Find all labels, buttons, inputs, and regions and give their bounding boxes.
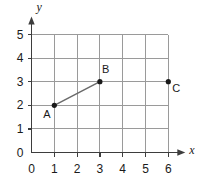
data-point-c <box>166 79 171 84</box>
point-label-b: B <box>102 64 109 75</box>
x-tick-label: 5 <box>142 163 149 175</box>
point-label-a: A <box>43 109 50 120</box>
x-tick-label: 6 <box>165 163 172 175</box>
x-axis-label: x <box>189 144 194 156</box>
y-tick-label: 5 <box>17 29 24 41</box>
x-tick-label: 1 <box>51 163 58 175</box>
y-axis-label: y <box>37 1 42 13</box>
point-layer <box>52 79 171 108</box>
data-point-b <box>97 79 102 84</box>
plot-canvas <box>0 0 198 183</box>
x-tick-label: 4 <box>119 163 126 175</box>
y-tick-label: 1 <box>17 123 24 135</box>
coordinate-plane-figure: ABC123456123450 y x 0 <box>0 0 198 183</box>
origin-label: 0 <box>17 147 24 159</box>
axis-layer <box>28 17 186 157</box>
x-origin-label: 0 <box>28 163 35 175</box>
x-tick-label: 3 <box>97 163 104 175</box>
y-axis-arrowhead <box>28 17 34 25</box>
y-tick-label: 2 <box>17 99 24 111</box>
x-tick-label: 2 <box>74 163 81 175</box>
point-label-c: C <box>172 83 180 94</box>
x-axis-arrowhead <box>177 149 185 155</box>
y-tick-label: 4 <box>17 52 24 64</box>
grid-layer <box>32 35 169 153</box>
y-tick-label: 3 <box>17 76 24 88</box>
data-point-a <box>52 103 57 108</box>
